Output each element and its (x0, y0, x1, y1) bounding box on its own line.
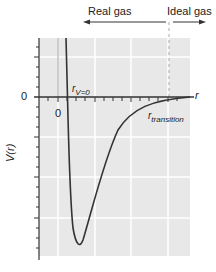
x-zero-tick-label: 0 (55, 107, 61, 119)
r-v0-sub: V=0 (75, 88, 89, 97)
real-gas-arrow (83, 20, 166, 25)
y-axis-label: V(r) (4, 144, 16, 162)
r-v0-annotation: rV=0 (72, 83, 90, 97)
r-transition-sub: transition (151, 115, 183, 124)
potential-diagram (0, 0, 216, 272)
ideal-gas-arrow (173, 20, 206, 25)
y-zero-tick-label: 0 (21, 90, 27, 102)
real-gas-label: Real gas (88, 5, 131, 17)
r-transition-annotation: rtransition (148, 110, 184, 124)
y-axis-ticks (34, 47, 39, 248)
ideal-gas-label: Ideal gas (167, 5, 212, 17)
x-axis-label: r (195, 89, 199, 101)
